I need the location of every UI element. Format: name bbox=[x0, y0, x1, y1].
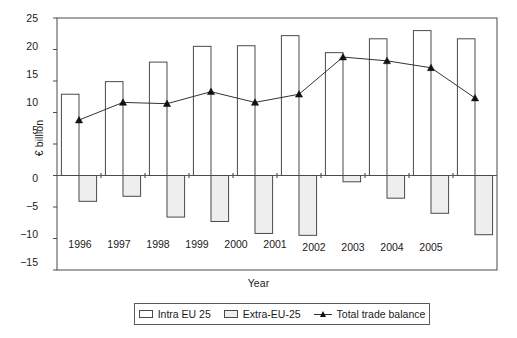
legend-label-balance: Total trade balance bbox=[337, 308, 426, 320]
legend-label-intra: Intra EU 25 bbox=[158, 308, 211, 320]
plot-area bbox=[0, 0, 517, 338]
chart-figure: € billion Year 25 20 15 10 5 0 −5 −10 −1… bbox=[0, 0, 517, 338]
legend-line-marker-icon bbox=[314, 310, 332, 319]
legend-item-extra-eu-25: Extra-EU-25 bbox=[224, 308, 301, 320]
legend-swatch-extra-icon bbox=[224, 310, 238, 318]
legend-item-intra-eu-25: Intra EU 25 bbox=[139, 308, 211, 320]
legend-label-extra: Extra-EU-25 bbox=[243, 308, 301, 320]
y-axis-ticks bbox=[53, 18, 57, 270]
legend-swatch-intra-icon bbox=[139, 310, 153, 318]
bars-extra-eu-25 bbox=[79, 176, 493, 236]
chart-legend: Intra EU 25 Extra-EU-25 Total trade bala… bbox=[134, 303, 430, 325]
legend-item-total-trade-balance: Total trade balance bbox=[314, 308, 426, 320]
